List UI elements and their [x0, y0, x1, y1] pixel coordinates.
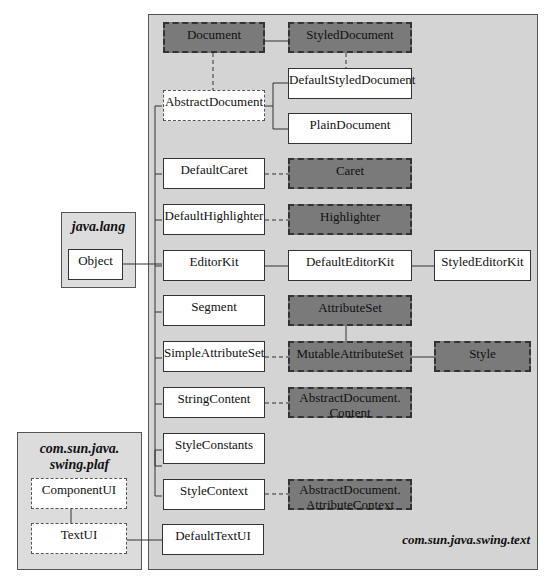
- class-string-content: StringContent: [163, 387, 265, 418]
- class-object: Object: [68, 249, 123, 280]
- class-segment: Segment: [163, 295, 265, 326]
- class-default-caret: DefaultCaret: [163, 158, 265, 189]
- class-style-context: StyleContext: [163, 479, 265, 510]
- class-text-ui: TextUI: [31, 523, 127, 554]
- class-default-text-ui: DefaultTextUI: [162, 524, 264, 555]
- abstract-document-content-line1: AbstractDocument.: [290, 390, 410, 405]
- class-simple-attribute-set: SimpleAttributeSet: [163, 341, 265, 372]
- interface-abstract-document-attribute-context: AbstractDocument. AttributeContext: [288, 479, 412, 510]
- class-default-styled-document: DefaultStyledDocument: [288, 68, 412, 99]
- interface-highlighter: Highlighter: [288, 204, 412, 235]
- interface-mutable-attribute-set: MutableAttributeSet: [288, 341, 412, 372]
- class-style-constants: StyleConstants: [163, 433, 265, 464]
- interface-style: Style: [434, 341, 531, 372]
- class-plain-document: PlainDocument: [288, 113, 412, 144]
- class-default-editor-kit: DefaultEditorKit: [288, 250, 412, 281]
- class-editor-kit: EditorKit: [163, 250, 265, 281]
- interface-attribute-set: AttributeSet: [288, 295, 412, 326]
- interface-document: Document: [163, 22, 265, 53]
- abstract-document-content-line2: Content: [290, 405, 410, 420]
- class-default-highlighter: DefaultHighlighter: [163, 204, 265, 235]
- attribute-context-line1: AbstractDocument.: [290, 482, 410, 497]
- class-abstract-document: AbstractDocument: [163, 90, 265, 121]
- class-styled-editor-kit: StyledEditorKit: [434, 250, 531, 281]
- class-component-ui: ComponentUI: [31, 478, 127, 509]
- attribute-context-line2: AttributeContext: [290, 497, 410, 512]
- package-swing-text-title: com.sun.java.swing.text: [370, 531, 530, 548]
- interface-caret: Caret: [288, 158, 412, 189]
- interface-styled-document: StyledDocument: [288, 22, 412, 53]
- interface-abstract-document-content: AbstractDocument. Content: [288, 387, 412, 418]
